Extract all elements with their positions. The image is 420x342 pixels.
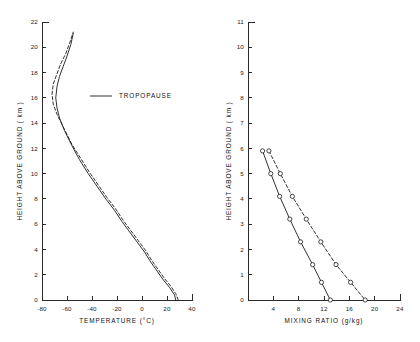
y-tick-label: 18 xyxy=(31,69,39,76)
x-tick-label: 20 xyxy=(371,305,379,312)
x-tick-label: 20 xyxy=(163,305,171,312)
data-point-marker xyxy=(363,298,367,302)
data-point-marker xyxy=(267,149,271,153)
figure-container: 0246810121416182022-80-60-40-2002040TEMP… xyxy=(0,0,420,342)
y-tick-label: 0 xyxy=(34,296,38,303)
y-tick-label: 2 xyxy=(34,271,38,278)
y-tick-label: 11 xyxy=(237,18,244,25)
x-tick-label: 4 xyxy=(272,305,276,312)
data-point-marker xyxy=(269,172,273,176)
data-point-marker xyxy=(328,298,332,302)
data-point-marker xyxy=(278,172,282,176)
y-axis-title: HEIGHT ABOVE GROUND ( km ) xyxy=(16,101,24,220)
data-point-marker xyxy=(311,263,315,267)
x-tick-label: 40 xyxy=(188,305,196,312)
x-tick-label: -40 xyxy=(87,305,97,312)
series-temperature-dashed xyxy=(52,32,178,300)
y-tick-label: 12 xyxy=(31,145,39,152)
data-point-marker xyxy=(288,217,292,221)
panel-temperature-profile: 0246810121416182022-80-60-40-2002040TEMP… xyxy=(16,18,196,325)
axis-frame xyxy=(248,22,400,300)
y-tick-label: 14 xyxy=(31,119,39,126)
y-tick-label: 10 xyxy=(31,170,39,177)
y-tick-label: 1 xyxy=(240,271,244,278)
x-tick-label: 8 xyxy=(297,305,301,312)
x-axis-title: TEMPERATURE (°C) xyxy=(79,317,154,325)
data-point-marker xyxy=(334,263,338,267)
legend-label-tropopause: TROPOPAUSE xyxy=(119,92,172,99)
y-tick-label: 6 xyxy=(240,145,244,152)
data-point-marker xyxy=(260,149,264,153)
series-temperature-solid xyxy=(56,33,176,300)
y-tick-label: 8 xyxy=(240,94,244,101)
y-tick-label: 4 xyxy=(240,195,244,202)
y-tick-label: 22 xyxy=(31,18,39,25)
data-point-marker xyxy=(319,240,323,244)
data-point-marker xyxy=(319,280,323,284)
x-tick-label: 0 xyxy=(140,305,144,312)
figure-svg: 0246810121416182022-80-60-40-2002040TEMP… xyxy=(0,0,420,342)
x-tick-label: -80 xyxy=(37,305,47,312)
panel-mixing-ratio-profile: 012345678910114812162024MIXING RATIO (g/… xyxy=(225,18,404,325)
y-tick-label: 2 xyxy=(240,246,244,253)
y-tick-label: 6 xyxy=(34,220,38,227)
y-axis-title: HEIGHT ABOVE GROUND ( km ) xyxy=(225,101,233,220)
x-tick-label: -60 xyxy=(62,305,72,312)
x-tick-label: 12 xyxy=(320,305,328,312)
data-point-marker xyxy=(290,194,294,198)
y-tick-label: 20 xyxy=(31,43,39,50)
series-mixing-ratio-dashed xyxy=(269,151,365,300)
y-tick-label: 5 xyxy=(240,170,244,177)
y-tick-label: 10 xyxy=(237,43,245,50)
x-tick-label: -20 xyxy=(112,305,122,312)
y-tick-label: 9 xyxy=(240,69,244,76)
data-point-marker xyxy=(278,194,282,198)
data-point-marker xyxy=(349,280,353,284)
y-tick-label: 0 xyxy=(240,296,244,303)
x-axis-title: MIXING RATIO (g/kg) xyxy=(285,317,364,325)
y-tick-label: 7 xyxy=(240,119,244,126)
x-tick-label: 16 xyxy=(346,305,354,312)
x-tick-label: 24 xyxy=(396,305,404,312)
data-point-marker xyxy=(298,240,302,244)
y-tick-label: 3 xyxy=(240,220,244,227)
data-point-marker xyxy=(304,217,308,221)
y-tick-label: 4 xyxy=(34,246,38,253)
y-tick-label: 8 xyxy=(34,195,38,202)
y-tick-label: 16 xyxy=(31,94,39,101)
